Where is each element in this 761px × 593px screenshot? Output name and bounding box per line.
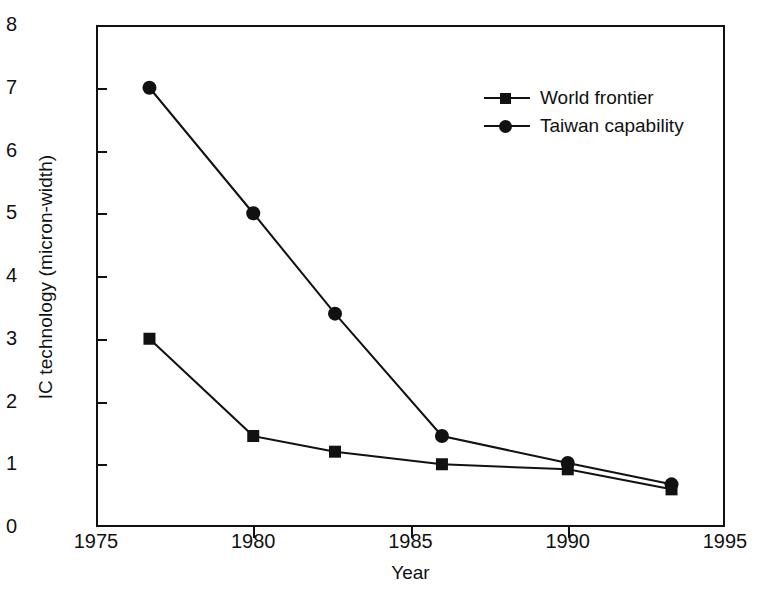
legend-entry-taiwan-capability: Taiwan capability: [484, 112, 684, 140]
x-axis-title: Year: [96, 562, 725, 584]
legend-label: Taiwan capability: [540, 115, 684, 137]
x-axis-tick-mark: [568, 527, 570, 538]
x-axis-tick-label: 1975: [51, 531, 141, 551]
y-axis-tick-label: 5: [0, 202, 17, 222]
y-axis-title: IC technology (micron-width): [35, 67, 57, 487]
y-axis-tick-label: 7: [0, 77, 17, 97]
y-axis-tick-mark: [96, 151, 107, 153]
y-axis-tick-mark: [96, 339, 107, 341]
y-axis-tick-mark: [96, 276, 107, 278]
y-axis-tick-label: 8: [0, 14, 17, 34]
circle-marker-icon: [484, 117, 530, 135]
x-axis-tick-mark: [411, 527, 413, 538]
y-axis-tick-label: 4: [0, 265, 17, 285]
y-axis-tick-label: 6: [0, 140, 17, 160]
y-axis-tick-mark: [96, 402, 107, 404]
y-axis-tick-label: 2: [0, 391, 17, 411]
y-axis-tick-mark: [96, 88, 107, 90]
legend-entry-world-frontier: World frontier: [484, 84, 684, 112]
y-axis-tick-label: 3: [0, 328, 17, 348]
y-axis-tick-label: 0: [0, 516, 17, 536]
y-axis-tick-mark: [96, 213, 107, 215]
square-marker-icon: [484, 89, 530, 107]
x-axis-tick-mark: [253, 527, 255, 538]
y-axis-tick-mark: [96, 464, 107, 466]
chart-figure: IC technology (micron-width) 012345678 1…: [0, 0, 761, 593]
legend-label: World frontier: [540, 87, 654, 109]
y-axis-tick-label: 1: [0, 453, 17, 473]
chart-legend: World frontier Taiwan capability: [484, 84, 684, 140]
x-axis-tick-label: 1995: [680, 531, 761, 551]
